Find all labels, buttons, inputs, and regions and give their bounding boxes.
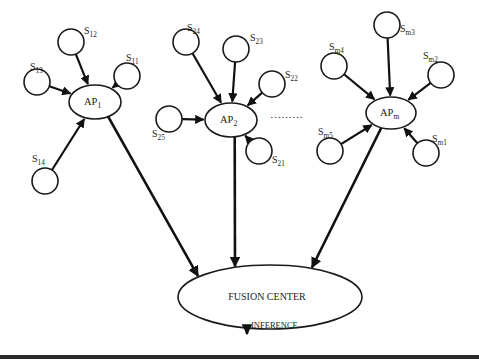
edges-layer [49, 38, 430, 276]
edge-s22-to-ap2 [248, 93, 263, 106]
bottom-border [0, 355, 479, 359]
edge-s23-to-ap2 [232, 62, 235, 102]
sensor-label-sm5: Sm5 [318, 126, 333, 140]
edge-s21-to-ap2 [245, 136, 250, 142]
fusion-center-label: FUSION CENTER [228, 291, 306, 302]
more-access-points-ellipsis: ……… [270, 108, 303, 120]
inference-label: INFERENCE [251, 320, 298, 330]
sensor-node-s11 [114, 63, 140, 89]
edge-s14-to-ap1 [52, 119, 84, 170]
edge-sm5-to-apm [341, 125, 372, 144]
sensor-node-s14 [32, 168, 58, 194]
sensor-node-sm3 [374, 12, 400, 38]
sensor-label-s12: S12 [84, 25, 97, 39]
sensor-node-sm2 [428, 62, 454, 88]
edge-sm1-to-apm [404, 128, 417, 143]
sensor-node-s12 [58, 29, 84, 55]
edge-s24-to-ap2 [192, 53, 221, 102]
sensor-node-sm4 [321, 53, 347, 79]
edge-sm4-to-apm [344, 74, 374, 99]
sensor-node-sm5 [317, 138, 343, 164]
edge-ap1-to-fusion-center [108, 117, 198, 276]
inference-output: INFERENCE [247, 320, 298, 334]
sensor-label-s23: S23 [250, 32, 263, 46]
sensor-label-s14: S14 [32, 153, 45, 167]
sensor-node-s21 [246, 138, 272, 164]
edge-s13-to-ap1 [49, 86, 70, 93]
sensor-node-s22 [259, 71, 285, 97]
edge-s12-to-ap1 [76, 54, 88, 84]
sensor-label-sm3: Sm3 [400, 23, 415, 37]
sensor-network-diagram: S12S11S13S14S24S23S22S25S21Sm3Sm4Sm2Sm5S… [0, 0, 479, 359]
edge-sm2-to-apm [408, 83, 430, 100]
edge-s11-to-ap1 [113, 84, 117, 88]
sensor-label-sm2: Sm2 [423, 50, 438, 64]
edge-sm3-to-apm [388, 38, 391, 96]
sensor-label-s22: S22 [285, 69, 298, 83]
sensor-label-s21: S21 [272, 154, 285, 168]
sensor-node-s25 [156, 106, 182, 132]
sensor-node-s23 [223, 36, 249, 62]
